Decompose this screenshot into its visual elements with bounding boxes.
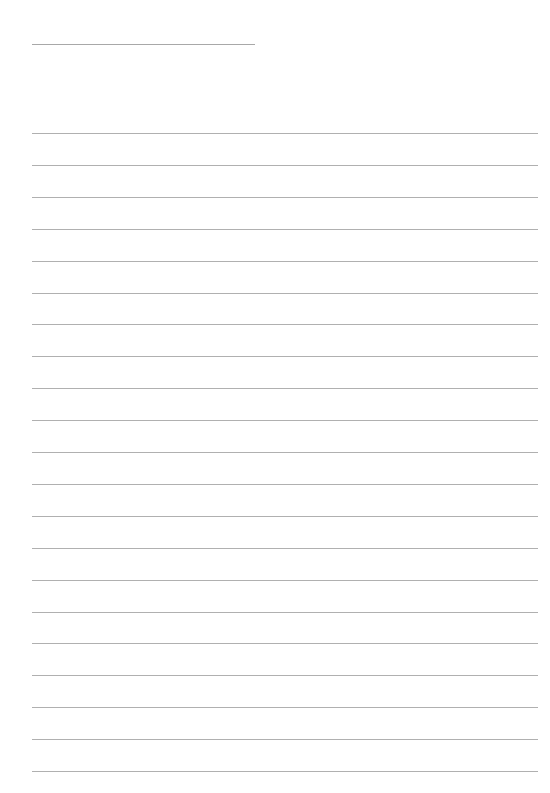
ruled-line <box>32 165 538 166</box>
ruled-line <box>32 516 538 517</box>
ruled-line <box>32 484 538 485</box>
ruled-line <box>32 197 538 198</box>
ruled-line <box>32 771 538 772</box>
ruled-line <box>32 261 538 262</box>
ruled-line <box>32 324 538 325</box>
ruled-line <box>32 707 538 708</box>
ruled-line <box>32 293 538 294</box>
ruled-line <box>32 739 538 740</box>
ruled-line <box>32 548 538 549</box>
title-line <box>32 44 255 45</box>
ruled-line <box>32 643 538 644</box>
ruled-line <box>32 133 538 134</box>
ruled-line <box>32 388 538 389</box>
ruled-line <box>32 452 538 453</box>
ruled-line <box>32 580 538 581</box>
ruled-line <box>32 229 538 230</box>
lined-page <box>0 0 550 793</box>
ruled-line <box>32 420 538 421</box>
ruled-line <box>32 612 538 613</box>
ruled-line <box>32 356 538 357</box>
ruled-line <box>32 675 538 676</box>
